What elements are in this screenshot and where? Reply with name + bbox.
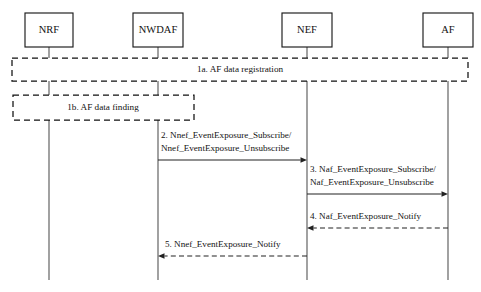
actor-nef[interactable]: NEF <box>282 13 332 47</box>
messages-group: 2. Nnef_EventExposure_Subscribe/ Nnef_Ev… <box>158 130 448 259</box>
actor-label-nef: NEF <box>297 24 317 35</box>
message-label-2-line1: 2. Nnef_EventExposure_Subscribe/ <box>161 130 292 140</box>
message-4[interactable]: 4. Naf_EventExposure_Notify <box>307 211 448 231</box>
actor-label-af: AF <box>441 24 455 35</box>
message-5[interactable]: 5. Nnef_EventExposure_Notify <box>158 239 307 259</box>
phase-box-label-1b: 1b. AF data finding <box>67 102 139 112</box>
message-arrowhead-5 <box>158 253 165 259</box>
message-label-3-line2: Naf_EventExposure_Unsubscribe <box>310 177 434 187</box>
message-2[interactable]: 2. Nnef_EventExposure_Subscribe/ Nnef_Ev… <box>158 130 307 163</box>
message-label-5-line1: 5. Nnef_EventExposure_Notify <box>165 239 281 249</box>
message-3[interactable]: 3. Naf_EventExposure_Subscribe/ Naf_Even… <box>307 164 448 197</box>
message-arrowhead-2 <box>301 157 308 163</box>
sequence-diagram-svg: NRF NWDAF NEF AF 1a. AF data registratio… <box>0 0 481 292</box>
phase-box-1a[interactable]: 1a. AF data registration <box>12 58 468 81</box>
actor-af[interactable]: AF <box>423 13 473 47</box>
actor-boxes-group: NRF NWDAF NEF AF <box>25 13 473 47</box>
message-label-3-line1: 3. Naf_EventExposure_Subscribe/ <box>310 164 436 174</box>
phase-box-1b[interactable]: 1b. AF data finding <box>13 95 194 120</box>
actor-nwdaf[interactable]: NWDAF <box>133 13 183 47</box>
actor-label-nwdaf: NWDAF <box>139 24 178 35</box>
message-label-4-line1: 4. Naf_EventExposure_Notify <box>310 211 422 221</box>
phase-box-label-1a: 1a. AF data registration <box>197 64 284 74</box>
actor-label-nrf: NRF <box>39 24 60 35</box>
sequence-diagram-canvas: NRF NWDAF NEF AF 1a. AF data registratio… <box>0 0 481 292</box>
message-arrowhead-4 <box>307 225 314 231</box>
message-arrowhead-3 <box>442 191 449 197</box>
message-label-2-line2: Nnef_EventExposure_Unsubscribe <box>161 143 289 153</box>
phase-boxes-group: 1a. AF data registration 1b. AF data fin… <box>12 58 468 120</box>
actor-nrf[interactable]: NRF <box>25 13 73 47</box>
